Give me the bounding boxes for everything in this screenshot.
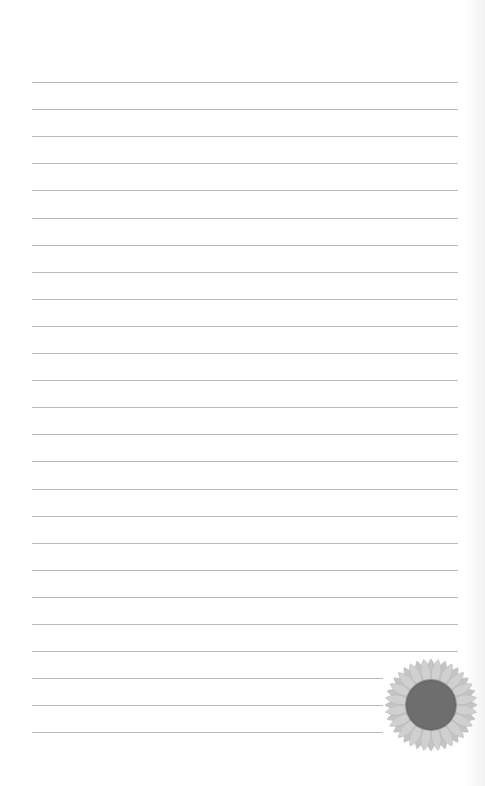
sunflower-icon bbox=[383, 657, 479, 753]
ruled-line bbox=[32, 109, 458, 110]
ruled-line bbox=[32, 705, 383, 706]
ruled-line bbox=[32, 218, 458, 219]
ruled-line bbox=[32, 678, 383, 679]
ruled-line bbox=[32, 326, 458, 327]
ruled-line bbox=[32, 136, 458, 137]
ruled-line bbox=[32, 299, 458, 300]
ruled-line bbox=[32, 272, 458, 273]
ruled-line bbox=[32, 516, 458, 517]
ruled-line bbox=[32, 163, 458, 164]
ruled-line bbox=[32, 353, 458, 354]
ruled-line bbox=[32, 82, 458, 83]
ruled-line bbox=[32, 732, 383, 733]
ruled-line bbox=[32, 461, 458, 462]
ruled-line bbox=[32, 624, 458, 625]
notepaper-page bbox=[0, 0, 485, 786]
ruled-line bbox=[32, 570, 458, 571]
ruled-line bbox=[32, 407, 458, 408]
ruled-line bbox=[32, 190, 458, 191]
ruled-line bbox=[32, 380, 458, 381]
ruled-line bbox=[32, 651, 458, 652]
ruled-line bbox=[32, 434, 458, 435]
ruled-line bbox=[32, 543, 458, 544]
ruled-line bbox=[32, 489, 458, 490]
ruled-line bbox=[32, 597, 458, 598]
ruled-line bbox=[32, 245, 458, 246]
